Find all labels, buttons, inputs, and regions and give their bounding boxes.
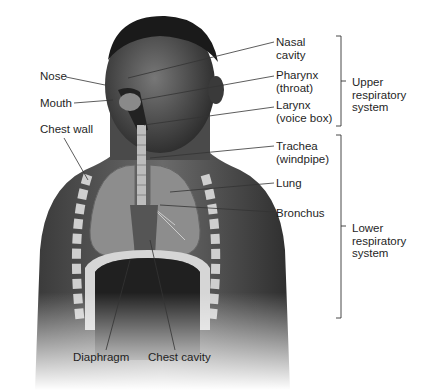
label-trachea: Trachea (windpipe) xyxy=(276,140,329,165)
respiratory-illustration xyxy=(0,0,433,390)
label-chest-wall: Chest wall xyxy=(40,123,93,136)
label-pharynx: Pharynx (throat) xyxy=(276,69,318,94)
label-diaphragm: Diaphragm xyxy=(73,351,129,364)
label-lung: Lung xyxy=(276,177,302,190)
label-larynx: Larynx (voice box) xyxy=(276,99,332,124)
label-lower-respiratory: Lower respiratory system xyxy=(352,222,406,260)
label-nose: Nose xyxy=(40,70,67,83)
label-upper-respiratory: Upper respiratory system xyxy=(352,76,406,114)
label-chest-cavity: Chest cavity xyxy=(148,351,211,364)
label-bronchus: Bronchus xyxy=(276,207,325,220)
label-mouth: Mouth xyxy=(40,97,72,110)
label-nasal-cavity: Nasal cavity xyxy=(276,36,305,61)
